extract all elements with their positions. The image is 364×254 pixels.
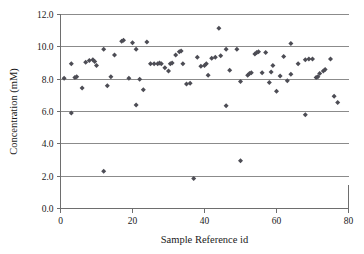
- data-point: [274, 89, 279, 94]
- data-point: [332, 94, 337, 99]
- data-point: [288, 72, 293, 77]
- y-tick-label-10: 10.0: [37, 42, 54, 52]
- data-point: [188, 81, 193, 86]
- data-point: [80, 86, 85, 91]
- scatter-chart: 0.02.04.06.08.010.012.0 020406080 Concen…: [0, 0, 364, 254]
- x-axis-label: Sample Reference id: [161, 234, 249, 245]
- data-point: [288, 41, 293, 46]
- y-axis-label: Concentration (mM): [8, 68, 20, 155]
- data-point: [137, 77, 142, 82]
- data-point: [267, 80, 272, 85]
- x-tick-label-0: 0: [58, 216, 63, 226]
- data-point: [335, 100, 340, 105]
- y-tick-label-4: 4.0: [42, 139, 54, 149]
- data-point: [141, 87, 146, 92]
- x-tick-labels: 020406080: [58, 216, 353, 226]
- data-point: [238, 79, 243, 84]
- data-point: [134, 47, 139, 52]
- y-tick-label-12: 12.0: [37, 10, 54, 20]
- gridlines: [61, 15, 349, 177]
- data-point: [278, 73, 283, 78]
- x-tick-label-80: 80: [344, 216, 354, 226]
- data-point: [206, 73, 211, 78]
- data-point: [126, 76, 131, 81]
- data-point: [112, 52, 117, 57]
- data-point: [270, 63, 275, 68]
- x-tick-label-60: 60: [272, 216, 282, 226]
- data-point: [218, 53, 223, 58]
- data-point: [224, 103, 229, 108]
- data-point: [310, 56, 315, 61]
- data-point: [209, 56, 214, 61]
- data-point: [296, 61, 301, 66]
- data-point: [224, 47, 229, 52]
- data-point: [238, 158, 243, 163]
- data-point: [328, 56, 333, 61]
- data-point: [191, 176, 196, 181]
- y-tick-label-8: 8.0: [42, 75, 54, 85]
- data-point: [234, 47, 239, 52]
- data-point: [144, 39, 149, 44]
- data-point: [281, 54, 286, 59]
- data-point: [62, 76, 67, 81]
- y-tick-label-6: 6.0: [42, 107, 54, 117]
- data-point: [213, 55, 218, 60]
- data-point: [303, 57, 308, 62]
- data-point: [227, 68, 232, 73]
- y-tick-label-0: 0.0: [42, 204, 54, 214]
- x-tick-label-20: 20: [128, 216, 138, 226]
- data-point: [269, 69, 274, 74]
- data-point: [166, 69, 171, 74]
- data-point: [198, 64, 203, 69]
- x-tick-label-40: 40: [200, 216, 210, 226]
- data-point: [101, 169, 106, 174]
- data-point: [216, 26, 221, 31]
- data-markers: [62, 26, 341, 181]
- y-tick-labels: 0.02.04.06.08.010.012.0: [37, 10, 54, 214]
- data-point: [180, 61, 185, 66]
- data-point: [105, 83, 110, 88]
- data-point: [134, 103, 139, 108]
- data-point: [260, 70, 265, 75]
- data-point: [263, 50, 268, 55]
- data-point: [173, 52, 178, 57]
- data-point: [101, 47, 106, 52]
- data-point: [184, 82, 189, 87]
- data-point: [195, 55, 200, 60]
- plot-svg: 0.02.04.06.08.010.012.0 020406080 Concen…: [0, 0, 364, 254]
- data-point: [69, 61, 74, 66]
- data-point: [108, 74, 113, 79]
- data-point: [303, 112, 308, 117]
- y-tick-label-2: 2.0: [42, 172, 54, 182]
- data-point: [162, 65, 167, 70]
- data-point: [130, 40, 135, 45]
